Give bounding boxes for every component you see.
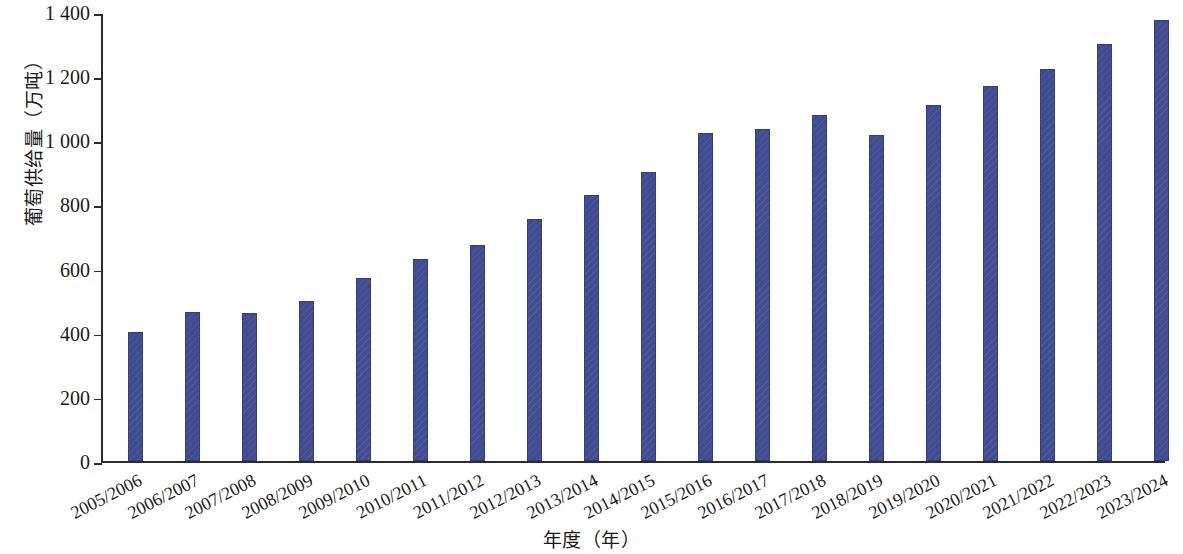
bar [242, 313, 257, 461]
bar [926, 105, 941, 461]
bar [1097, 44, 1112, 462]
bar [185, 312, 200, 461]
bar [755, 129, 770, 461]
bar [641, 172, 656, 462]
y-axis-tick-mark [94, 271, 102, 273]
x-axis-line [101, 461, 1165, 463]
bar [128, 332, 143, 462]
bar [470, 245, 485, 461]
y-axis-title: 葡萄供给量（万吨） [19, 0, 46, 289]
y-axis-line [101, 14, 103, 463]
y-axis-tick-mark [94, 206, 102, 208]
bar [299, 301, 314, 461]
bar [812, 115, 827, 461]
grape-supply-bar-chart: 葡萄供给量（万吨） 02004006008001 0001 2001 400 2… [0, 0, 1183, 554]
plot-area: 02004006008001 0001 2001 400 [101, 14, 1165, 463]
y-axis-tick-label: 0 [80, 451, 90, 473]
bar [1154, 20, 1169, 462]
y-axis-tick-label: 1 200 [45, 66, 90, 88]
y-axis-tick-label: 1 000 [45, 130, 90, 152]
bar [584, 195, 599, 461]
y-axis-tick-mark [94, 14, 102, 16]
bar [413, 259, 428, 461]
bar [983, 86, 998, 462]
y-axis-tick-mark [94, 78, 102, 80]
y-axis-tick-label: 400 [60, 323, 90, 345]
bar [869, 135, 884, 461]
y-axis-tick-label: 1 400 [45, 2, 90, 24]
y-axis-tick-label: 600 [60, 259, 90, 281]
bar [1040, 69, 1055, 462]
bar [698, 133, 713, 462]
bar [356, 278, 371, 461]
y-axis-tick-mark [94, 335, 102, 337]
y-axis-tick-mark [94, 463, 102, 465]
x-axis-title: 年度（年） [0, 525, 1183, 552]
y-axis-tick-label: 800 [60, 194, 90, 216]
y-axis-tick-mark [94, 399, 102, 401]
y-axis-tick-mark [94, 142, 102, 144]
bar [527, 219, 542, 461]
y-axis-tick-label: 200 [60, 387, 90, 409]
